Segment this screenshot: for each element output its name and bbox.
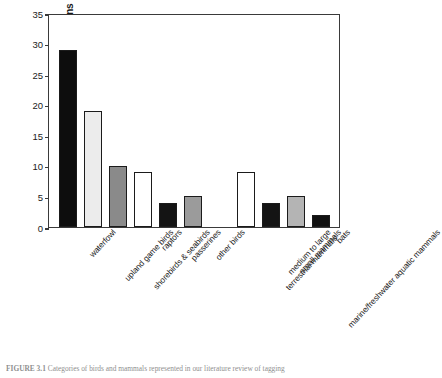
bar (237, 172, 255, 227)
y-tick-label: 35 (32, 9, 43, 20)
y-tick-mark (45, 45, 49, 46)
y-tick-mark (45, 137, 49, 138)
y-tick-mark (45, 76, 49, 77)
bar (184, 196, 202, 227)
bar (262, 203, 280, 227)
bar (109, 166, 127, 227)
bars-layer (49, 15, 339, 227)
y-tick-label: 30 (32, 39, 43, 50)
bar (287, 196, 305, 227)
x-axis-labels: waterfowlupland game birdsshorebirds & s… (48, 228, 418, 356)
bar (312, 215, 330, 227)
y-tick-label: 20 (32, 100, 43, 111)
y-tick-mark (45, 14, 49, 15)
bar (59, 50, 77, 227)
y-tick-mark (45, 167, 49, 168)
plot-area: 05101520253035 (48, 14, 340, 228)
x-axis-label-line1: marine/freshwater aquatic mammals (346, 227, 442, 329)
bar (159, 203, 177, 227)
y-tick-mark (45, 106, 49, 107)
y-tick-label: 5 (38, 192, 43, 203)
bar (134, 172, 152, 227)
y-tick-mark (45, 198, 49, 199)
figure-caption: FIGURE 3.1 Categories of birds and mamma… (6, 364, 412, 377)
x-axis-label: marine/freshwater aquatic mammals (346, 228, 442, 330)
bar (84, 111, 102, 227)
y-tick-label: 0 (38, 223, 43, 234)
caption-label: FIGURE 3.1 (6, 364, 46, 373)
y-tick-label: 10 (32, 161, 43, 172)
x-axis-label: waterfowl (88, 228, 118, 259)
y-tick-label: 25 (32, 70, 43, 81)
x-axis-label-line1: waterfowl (87, 227, 118, 259)
y-tick-label: 15 (32, 131, 43, 142)
caption-text: Categories of birds and mammals represen… (48, 364, 285, 373)
